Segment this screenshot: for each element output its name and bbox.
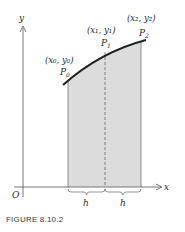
p1-coord-label: (x₁, y₁)	[87, 25, 115, 35]
brace-h1	[68, 189, 105, 195]
p0-coord-label: (x₀, y₀)	[45, 55, 73, 65]
interval-h1-label: h	[83, 198, 89, 208]
interval-h2-label: h	[120, 198, 126, 208]
shaded-area	[68, 41, 141, 187]
p2-label: P2	[138, 28, 149, 39]
y-axis-label: y	[18, 13, 25, 23]
brace-h2	[105, 189, 141, 195]
origin-label: O	[12, 190, 20, 200]
p2-coord-label: (x₂, y₂)	[127, 13, 155, 23]
x-axis-label: x	[164, 182, 169, 192]
p0-label: P0	[59, 67, 70, 78]
figure-caption: FIGURE 8.10.2	[6, 215, 63, 224]
simpson-rule-diagram: y x O (x₀, y₀) P0 (x₁, y₁) P1 (x₂, y₂) P…	[0, 0, 185, 232]
p1-label: P1	[100, 38, 111, 49]
